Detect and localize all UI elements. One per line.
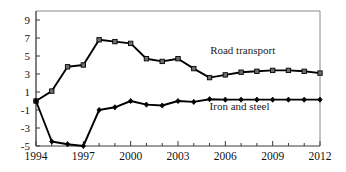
series-marker <box>318 71 322 75</box>
x-tick-label: 2006 <box>214 150 237 162</box>
x-tick-label: 2003 <box>167 150 190 162</box>
y-tick-label: -3 <box>21 122 31 134</box>
y-tick-label: 1 <box>25 86 31 98</box>
y-tick-label: 9 <box>25 14 31 26</box>
series-marker <box>223 73 227 77</box>
y-tick-label: 5 <box>25 50 31 62</box>
series-marker <box>65 65 69 69</box>
line-chart-figure: -5-3-113579 1994199720002003200620092012… <box>0 0 346 172</box>
chart-canvas: -5-3-113579 1994199720002003200620092012… <box>0 0 346 172</box>
series-marker <box>270 68 274 72</box>
series-marker <box>192 66 196 70</box>
series-marker <box>144 57 148 61</box>
series-marker <box>81 63 85 67</box>
series-marker <box>128 41 132 45</box>
y-tick-label: -1 <box>21 104 30 116</box>
series-marker <box>239 70 243 74</box>
series-marker <box>50 89 54 93</box>
x-tick-label: 1994 <box>25 150 48 162</box>
series-marker <box>286 68 290 72</box>
series-marker <box>176 57 180 61</box>
x-tick-label: 2012 <box>309 150 332 162</box>
series-marker <box>255 69 259 73</box>
series-marker <box>207 75 211 79</box>
series-label-iron-and-steel: Iron and steel <box>210 100 270 112</box>
x-tick-label: 2000 <box>119 150 142 162</box>
x-tick-label: 1997 <box>72 150 95 162</box>
series-marker <box>113 39 117 43</box>
x-tick-label: 2009 <box>261 150 284 162</box>
y-tick-label: 3 <box>25 68 31 80</box>
series-marker <box>97 38 101 42</box>
y-tick-label: 7 <box>25 32 31 44</box>
series-marker <box>302 69 306 73</box>
series-marker <box>160 59 164 63</box>
series-label-road-transport: Road transport <box>210 44 275 56</box>
